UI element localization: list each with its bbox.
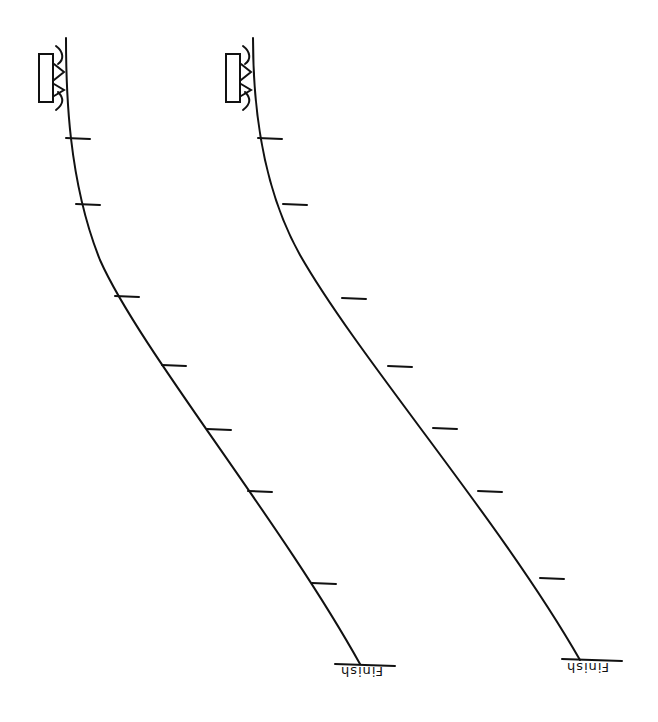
tick-mark-right — [388, 366, 412, 367]
tick-mark-left — [162, 365, 186, 366]
tick-mark-left — [115, 296, 139, 297]
track-curve-right — [253, 38, 580, 660]
finish-label-left: Finish — [340, 664, 383, 679]
tick-mark-right — [478, 491, 502, 492]
tick-mark-right — [540, 578, 564, 579]
tick-mark-right — [342, 298, 366, 299]
tick-mark-right — [433, 428, 457, 429]
tick-mark-left — [76, 204, 100, 205]
diagram-canvas — [0, 0, 658, 722]
track-curve-left — [66, 38, 360, 664]
finish-label-right: Finish — [566, 660, 609, 675]
tick-mark-left — [248, 491, 272, 492]
wheels-right — [241, 46, 251, 110]
tick-mark-left — [66, 138, 90, 139]
tick-mark-right — [283, 204, 307, 205]
tick-mark-left — [207, 429, 231, 430]
wheels-left — [54, 46, 64, 110]
block-right — [226, 54, 240, 102]
tick-mark-left — [312, 583, 336, 584]
block-left — [39, 54, 53, 102]
tick-mark-right — [258, 138, 282, 139]
